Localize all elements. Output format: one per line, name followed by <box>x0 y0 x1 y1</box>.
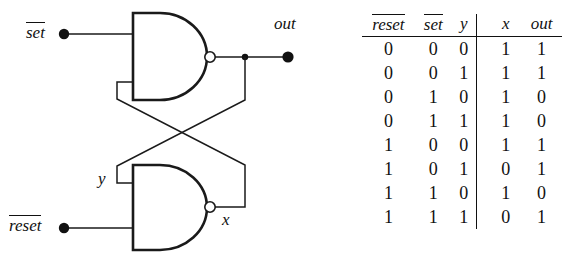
reset-label-text: reset <box>9 217 41 234</box>
cell-set: 1 <box>415 85 452 109</box>
table-row: 01110 <box>362 109 562 133</box>
table-row: 01010 <box>362 85 562 109</box>
column-header-reset: reset <box>362 14 415 37</box>
truth-table-header-row: reset set y x out <box>362 14 562 37</box>
column-header-out: out <box>521 14 562 37</box>
truth-table-head: reset set y x out <box>362 14 562 37</box>
cell-out: 1 <box>521 133 562 157</box>
y-node-label: y <box>98 170 106 187</box>
x-label-text: x <box>222 211 230 228</box>
x-header-text: x <box>502 14 510 33</box>
column-header-set: set <box>415 14 452 37</box>
circuit-svg <box>0 0 330 264</box>
cell-x: 1 <box>476 181 521 205</box>
cell-x: 1 <box>476 109 521 133</box>
table-row: 11010 <box>362 181 562 205</box>
set-terminal-dot <box>59 29 69 39</box>
cell-y: 1 <box>452 157 476 181</box>
cell-x: 0 <box>476 157 521 181</box>
cell-set: 1 <box>415 205 452 229</box>
set-input-label: set <box>26 22 45 41</box>
table-row: 00111 <box>362 61 562 85</box>
reset-header-text: reset <box>372 14 404 33</box>
cell-reset: 1 <box>362 133 415 157</box>
cell-y: 1 <box>452 109 476 133</box>
out-label-text: out <box>274 15 296 32</box>
out-terminal-dot <box>282 51 293 62</box>
cell-reset: 0 <box>362 85 415 109</box>
cell-set: 1 <box>415 109 452 133</box>
cell-set: 0 <box>415 61 452 85</box>
column-header-x: x <box>476 14 521 37</box>
cell-x: 0 <box>476 205 521 229</box>
cell-x: 1 <box>476 85 521 109</box>
cell-y: 0 <box>452 181 476 205</box>
lower-nand-gate-body <box>133 165 207 250</box>
cell-reset: 1 <box>362 181 415 205</box>
cell-out: 1 <box>521 61 562 85</box>
reset-terminal-dot <box>59 223 69 233</box>
cell-out: 1 <box>521 37 562 62</box>
cell-reset: 1 <box>362 205 415 229</box>
cell-out: 0 <box>521 181 562 205</box>
y-header-text: y <box>460 14 468 33</box>
cell-y: 0 <box>452 37 476 62</box>
upper-nand-gate-body <box>133 13 207 100</box>
cell-x: 1 <box>476 133 521 157</box>
y-label-text: y <box>98 170 106 187</box>
cell-y: 0 <box>452 85 476 109</box>
table-row: 11101 <box>362 205 562 229</box>
truth-table-panel: reset set y x out <box>362 14 562 229</box>
truth-table-body: 0001100111010100111010011101011101011101 <box>362 37 562 230</box>
cell-x: 1 <box>476 37 521 62</box>
cell-set: 1 <box>415 181 452 205</box>
cell-out: 1 <box>521 205 562 229</box>
table-row: 10101 <box>362 157 562 181</box>
x-node-label: x <box>222 211 230 228</box>
cell-reset: 1 <box>362 157 415 181</box>
cell-reset: 0 <box>362 37 415 62</box>
reset-input-label: reset <box>9 215 41 234</box>
upper-nand-gate-bubble <box>205 52 215 62</box>
cell-x: 1 <box>476 61 521 85</box>
cell-set: 0 <box>415 157 452 181</box>
circuit-diagram: set reset out y x <box>0 0 330 264</box>
truth-table: reset set y x out <box>362 14 562 229</box>
lower-nand-gate-bubble <box>205 202 215 212</box>
cell-y: 1 <box>452 205 476 229</box>
table-row: 10011 <box>362 133 562 157</box>
cell-out: 0 <box>521 85 562 109</box>
column-header-y: y <box>452 14 476 37</box>
cell-y: 0 <box>452 133 476 157</box>
cell-reset: 0 <box>362 109 415 133</box>
table-row: 00011 <box>362 37 562 62</box>
out-header-text: out <box>531 14 553 33</box>
cell-reset: 0 <box>362 61 415 85</box>
cell-y: 1 <box>452 61 476 85</box>
cell-set: 0 <box>415 133 452 157</box>
out-label: out <box>274 15 296 32</box>
cell-out: 1 <box>521 157 562 181</box>
set-label-text: set <box>26 24 45 41</box>
cell-out: 0 <box>521 109 562 133</box>
set-header-text: set <box>424 14 443 33</box>
cell-set: 0 <box>415 37 452 62</box>
figure-nand-latch: set reset out y x reset set <box>0 0 588 264</box>
